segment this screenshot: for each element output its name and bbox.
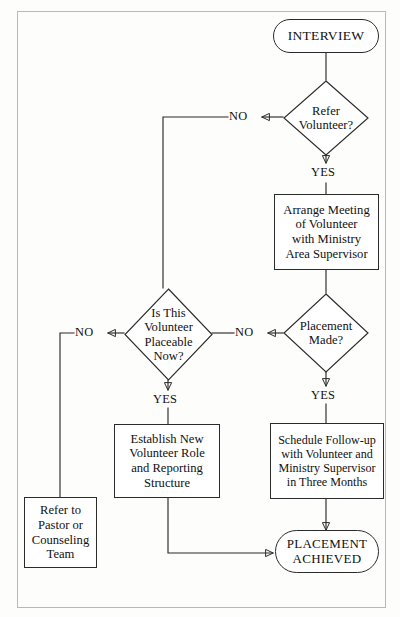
edge-refer-no-path	[163, 117, 228, 288]
node-establish-role-line2: Volunteer Role	[129, 446, 205, 461]
node-schedule-followup-line4: in Three Months	[287, 475, 367, 489]
node-refer-pastor-line1: Refer to	[40, 503, 81, 518]
node-schedule-followup-line3: Ministry Supervisor	[278, 461, 375, 475]
node-arrange-meeting[interactable]: Arrange Meeting of Volunteer with Minist…	[274, 194, 379, 270]
edge-label-refer-yes: YES	[311, 165, 335, 180]
edge-label-placement-no: NO	[235, 325, 253, 340]
node-placement-achieved[interactable]: PLACEMENT ACHIEVED	[275, 530, 379, 573]
edge-label-placeable-yes: YES	[153, 392, 177, 407]
edge-label-placeable-no: NO	[75, 325, 93, 340]
node-arrange-meeting-line3: with Ministry	[292, 232, 361, 247]
node-refer-pastor[interactable]: Refer to Pastor or Counseling Team	[24, 497, 97, 568]
node-is-placeable-shape[interactable]	[124, 288, 213, 381]
node-interview[interactable]: INTERVIEW	[273, 19, 379, 53]
edge-label-refer-no: NO	[229, 109, 247, 124]
node-establish-role[interactable]: Establish New Volunteer Role and Reporti…	[114, 424, 220, 498]
node-schedule-followup-line2: with Volunteer and	[281, 447, 373, 461]
edge-establish-to-achieved	[168, 498, 273, 553]
node-arrange-meeting-line1: Arrange Meeting	[283, 203, 369, 218]
node-refer-pastor-line4: Team	[47, 547, 75, 562]
node-placement-achieved-line1: PLACEMENT	[287, 537, 368, 552]
edge-placeable-no-path	[60, 333, 74, 497]
node-schedule-followup-line1: Schedule Follow-up	[278, 433, 376, 447]
node-arrange-meeting-line2: of Volunteer	[295, 217, 357, 232]
node-interview-label: INTERVIEW	[285, 28, 368, 43]
node-establish-role-line4: Structure	[144, 476, 190, 491]
node-placement-made-shape[interactable]	[283, 293, 369, 373]
node-schedule-followup[interactable]: Schedule Follow-up with Volunteer and Mi…	[270, 423, 384, 499]
node-establish-role-line1: Establish New	[130, 432, 203, 447]
node-placement-achieved-line2: ACHIEVED	[293, 552, 362, 567]
node-refer-pastor-line2: Pastor or	[38, 518, 83, 533]
edge-label-placement-yes: YES	[311, 388, 335, 403]
flowchart-page: INTERVIEW Refer Volunteer? Arrange Meeti…	[0, 0, 400, 617]
node-establish-role-line3: and Reporting	[131, 461, 203, 476]
node-refer-volunteer-shape[interactable]	[283, 80, 369, 156]
node-refer-pastor-line3: Counseling	[32, 533, 89, 548]
node-arrange-meeting-line4: Area Supervisor	[285, 247, 367, 262]
